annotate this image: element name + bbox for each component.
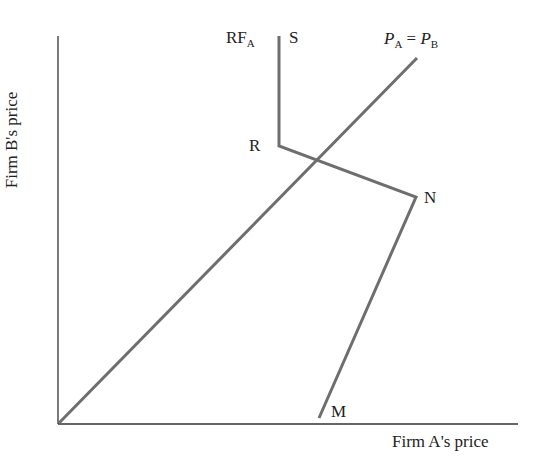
rf-sub: A — [247, 37, 255, 49]
x-axis-label: Firm A's price — [392, 433, 489, 450]
point-s-label: S — [289, 29, 298, 46]
pa-sub: A — [394, 38, 402, 50]
y-axis-label: Firm B's price — [2, 92, 22, 189]
equal-price-label: PA = PB — [384, 30, 438, 47]
pb-main: P — [420, 29, 430, 48]
reaction-function-a — [279, 36, 416, 418]
pb-sub: B — [431, 38, 438, 50]
y-axis-label-wrap: Firm B's price — [2, 60, 22, 220]
rf-a-label: RFA — [226, 29, 255, 46]
pa-main: P — [384, 29, 394, 48]
equals-sign: = — [407, 29, 417, 48]
diagram-canvas — [0, 0, 549, 470]
point-r-label: R — [249, 137, 260, 154]
point-n-label: N — [424, 189, 436, 206]
point-m-label: M — [331, 403, 346, 420]
equal-price-line — [59, 58, 417, 423]
rf-main: RF — [226, 28, 247, 47]
